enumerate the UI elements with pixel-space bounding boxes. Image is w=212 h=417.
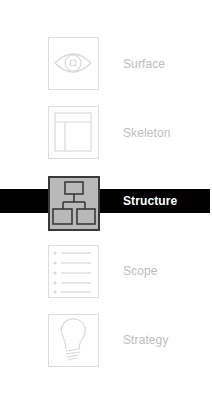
plane-label-strategy: Strategy bbox=[123, 333, 169, 347]
eye-icon bbox=[49, 38, 97, 88]
plane-label-structure: Structure bbox=[123, 194, 177, 208]
plane-label-skeleton: Skeleton bbox=[123, 126, 171, 140]
skeleton-icon-box[interactable] bbox=[48, 106, 99, 159]
plane-label-scope: Scope bbox=[123, 264, 158, 278]
wireframe-layout-icon bbox=[49, 107, 97, 157]
lightbulb-icon bbox=[49, 315, 97, 365]
scope-icon-box[interactable] bbox=[48, 245, 99, 298]
strategy-icon-box[interactable] bbox=[48, 314, 99, 367]
plane-label-surface: Surface bbox=[123, 57, 165, 71]
surface-icon-box[interactable] bbox=[48, 37, 99, 90]
hierarchy-tree-icon bbox=[50, 178, 98, 229]
active-plane-highlight-bar bbox=[0, 189, 210, 213]
bullet-list-icon bbox=[49, 246, 97, 296]
structure-icon-box[interactable] bbox=[48, 176, 100, 231]
